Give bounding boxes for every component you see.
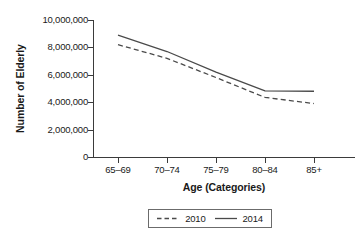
chart-legend: 20102014	[148, 209, 272, 228]
legend-line-swatch-icon	[157, 215, 179, 222]
series-line-2014	[118, 35, 314, 91]
legend-label: 2014	[243, 213, 263, 224]
legend-line-swatch-icon	[215, 215, 237, 222]
line-chart: Number of Elderly 02,000,0004,000,0006,0…	[0, 0, 361, 240]
legend-entry-2010[interactable]: 2010	[157, 213, 205, 224]
legend-entry-2014[interactable]: 2014	[215, 213, 263, 224]
legend-label: 2010	[185, 213, 205, 224]
series-line-2010	[118, 45, 314, 104]
plot-area	[0, 0, 361, 240]
